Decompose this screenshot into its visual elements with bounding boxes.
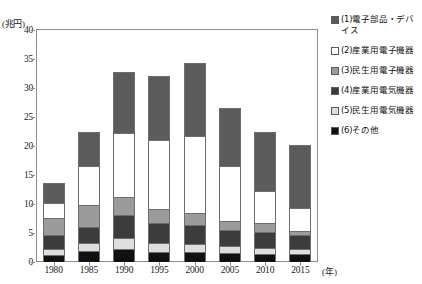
y-tick-label: 20 [3,141,33,151]
bar-group [148,30,170,262]
x-tick-label: 2015 [280,265,320,275]
bar-segment [78,243,100,251]
legend-item-label: (3)民生用電子機器 [341,65,414,76]
bar-segment [113,72,135,132]
legend-item-label: (1)電子部品・デバイス [341,14,422,36]
bar-segment [254,132,276,191]
legend-swatch-icon [331,87,339,95]
bar-segment [148,209,170,223]
y-tick-mark [31,59,35,60]
legend-swatch-icon [331,47,339,55]
bar-segment [254,254,276,262]
x-tick-label: 1980 [34,265,74,275]
legend-item: (6)その他 [331,125,422,136]
bar-segment [78,251,100,262]
bar-segment [113,215,135,238]
bar-segment [289,145,311,207]
x-tick-mark [54,262,55,266]
legend-item-label: (2)産業用電子機器 [341,45,414,56]
bar-segment [254,191,276,223]
bar-segment [78,227,100,243]
bar-segment [219,246,241,253]
y-tick-mark [31,204,35,205]
x-tick-label: 1985 [69,265,109,275]
legend-item: (2)産業用電子機器 [331,45,422,56]
bar-segment [184,63,206,136]
x-tick-mark [300,262,301,266]
bar-segment [148,243,170,252]
bar-stack [113,72,135,262]
bar-segment [219,108,241,165]
bar-group [219,30,241,262]
y-tick-label: 35 [3,54,33,64]
x-tick-label: 2000 [175,265,215,275]
x-tick-label: 1995 [139,265,179,275]
x-tick-label: 2010 [245,265,285,275]
legend-swatch-icon [331,127,339,135]
x-tick-mark [159,262,160,266]
y-tick-mark [31,30,35,31]
bar-segment [184,252,206,262]
bar-group [254,30,276,262]
bar-stack [289,145,311,262]
y-tick-label: 15 [3,170,33,180]
x-axis-unit-label: (年) [322,265,337,278]
bar-segment [184,136,206,214]
bar-segment [43,183,65,203]
y-tick-label: 25 [3,112,33,122]
bar-segment [43,203,65,218]
bar-stack [184,63,206,262]
x-tick-mark [265,262,266,266]
bar-stack [43,183,65,262]
bar-segment [113,238,135,249]
bar-stack [254,132,276,262]
y-tick-label: 10 [3,199,33,209]
x-tick-mark [230,262,231,266]
x-tick-mark [124,262,125,266]
bar-group [43,30,65,262]
bar-group [113,30,135,262]
y-tick-mark [31,175,35,176]
bar-segment [289,208,311,231]
bar-segment [113,197,135,216]
bar-segment [254,232,276,248]
bar-segment [113,133,135,197]
bar-segment [148,223,170,243]
bar-segment [289,254,311,262]
bar-segment [113,249,135,262]
bar-segment [43,255,65,262]
y-tick-mark [31,88,35,89]
chart-legend: (1)電子部品・デバイス(2)産業用電子機器(3)民生用電子機器(4)産業用電気… [331,14,422,145]
bar-segment [184,225,206,244]
bar-segment [184,213,206,225]
bar-segment [43,235,65,249]
x-tick-label: 1990 [104,265,144,275]
bar-segment [78,132,100,167]
bar-segment [219,221,241,230]
legend-item: (5)民生用電気機器 [331,105,422,116]
y-tick-mark [31,262,35,263]
bar-stack [219,108,241,262]
y-tick-label: 40 [3,25,33,35]
y-tick-mark [31,233,35,234]
bar-segment [219,230,241,246]
legend-item: (1)電子部品・デバイス [331,14,422,36]
bars-layer [36,30,318,262]
bar-segment [219,253,241,262]
bar-group [184,30,206,262]
bar-segment [148,252,170,262]
y-tick-label: 30 [3,83,33,93]
stacked-bar-chart: (兆円) 4035302520151050 (年) (1)電子部品・デバイス(2… [0,0,422,284]
bar-segment [78,166,100,204]
bar-group [78,30,100,262]
y-tick-label: 0 [3,257,33,267]
legend-item: (3)民生用電子機器 [331,65,422,76]
bar-segment [254,223,276,232]
x-tick-label: 2005 [210,265,250,275]
y-tick-mark [31,146,35,147]
bar-group [289,30,311,262]
bar-segment [148,140,170,208]
legend-item-label: (4)産業用電気機器 [341,85,414,96]
legend-item-label: (6)その他 [341,125,379,136]
x-tick-mark [195,262,196,266]
